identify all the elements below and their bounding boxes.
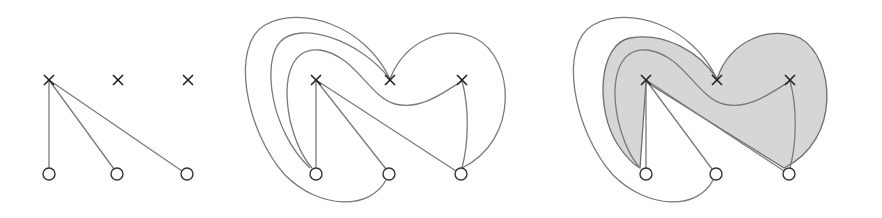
circle-node xyxy=(710,168,722,180)
cross-node xyxy=(113,75,123,85)
panel-1 xyxy=(43,75,193,180)
panel-3 xyxy=(573,17,827,202)
diagram xyxy=(0,0,882,218)
circle-node xyxy=(310,168,322,180)
circle-node xyxy=(640,168,652,180)
circle-node xyxy=(455,168,467,180)
circle-node xyxy=(383,168,395,180)
edge-straight xyxy=(49,80,182,171)
cross-node xyxy=(183,75,193,85)
circle-node xyxy=(111,168,123,180)
panel-2 xyxy=(245,17,505,202)
edge-straight xyxy=(316,80,386,169)
edge-curved xyxy=(390,33,505,168)
edge-curved xyxy=(462,81,467,168)
edge-straight xyxy=(316,80,456,171)
circle-node xyxy=(43,168,55,180)
circle-node xyxy=(783,168,795,180)
circle-node xyxy=(181,168,193,180)
cross-node xyxy=(385,75,395,85)
edge-curved xyxy=(287,50,462,168)
edge-straight xyxy=(49,80,114,169)
